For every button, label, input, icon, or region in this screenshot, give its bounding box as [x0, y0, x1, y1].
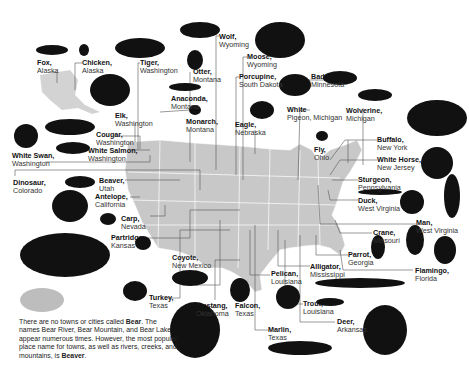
place-name: Kansas — [111, 242, 145, 250]
label-buffalo: Buffalo,New York — [377, 136, 407, 152]
falcon-silhouette — [230, 278, 250, 302]
place-name: Pigeon, Michigan — [287, 114, 342, 122]
anaconda-silhouette — [169, 83, 201, 91]
flamingo-silhouette — [434, 236, 456, 264]
place-name: Montana — [186, 126, 218, 134]
label-falcon: Falcon,Texas — [235, 302, 260, 318]
label-monarch: Monarch,Montana — [186, 118, 218, 134]
label-turkey: Turkey,Texas — [149, 294, 174, 310]
label-white-horse: White Horse,New Jersey — [377, 156, 421, 172]
label-white-pigeon: WhitePigeon, Michigan — [287, 106, 342, 122]
note-bold-beaver: Beaver — [62, 352, 85, 359]
label-dinosaur: Dinosaur,Colorado — [13, 179, 46, 195]
label-mustang: Mustang,Oklahoma — [196, 302, 229, 318]
label-anaconda: Anaconda,Montana — [171, 95, 208, 111]
buffalo-silhouette — [407, 100, 467, 136]
duck-silhouette — [400, 190, 424, 214]
man-silhouette — [444, 174, 460, 218]
label-elk: Elk,Washington — [115, 112, 153, 128]
place-name: Ohio — [314, 154, 329, 162]
porcupine-silhouette — [279, 74, 311, 96]
place-name: Arkansas — [337, 326, 367, 334]
label-white-salmon: White Salmon,Washington — [88, 147, 138, 163]
label-deer: Deer,Arkansas — [337, 318, 367, 334]
label-otter: Otter,Montana — [193, 68, 221, 84]
place-name: Wyoming — [219, 41, 249, 49]
place-name: Mississippi — [310, 271, 345, 279]
place-name: Minnesota — [311, 81, 344, 89]
label-pelican: Pelican,Louisiana — [271, 270, 302, 286]
wolverine-silhouette — [358, 89, 392, 101]
label-marlin: Marlin,Texas — [268, 326, 291, 342]
place-name: Pennsylvania — [358, 184, 401, 192]
tiger-silhouette — [115, 38, 165, 58]
chicken-silhouette — [79, 44, 89, 56]
pelican-silhouette — [276, 285, 300, 309]
place-name: South Dakota — [239, 81, 283, 89]
place-name: Washington — [140, 67, 178, 75]
label-partridge: Partridge,Kansas — [111, 234, 145, 250]
elk-silhouette — [90, 74, 130, 106]
coyote-silhouette — [172, 270, 208, 286]
animal-place-names-map: Fox,AlaskaChicken,AlaskaTiger,Washington… — [0, 0, 469, 372]
label-man: Man,West Virginia — [416, 219, 458, 235]
place-name: Missouri — [373, 237, 400, 245]
label-trout: Trout,Louisiana — [303, 300, 334, 316]
place-name: Alaska — [37, 67, 59, 75]
white-swan-badge — [14, 124, 38, 148]
label-sturgeon: Sturgeon,Pennsylvania — [358, 176, 401, 192]
place-name: Montana — [171, 103, 208, 111]
place-name: Oklahoma — [196, 310, 229, 318]
white-horse-badge — [421, 147, 453, 179]
fly-silhouette — [316, 131, 328, 141]
label-tiger: Tiger,Washington — [140, 59, 178, 75]
marlin-silhouette — [268, 341, 332, 355]
place-name: Washington — [12, 160, 54, 168]
beaver-silhouette — [65, 176, 95, 188]
label-porcupine: Porcupine,South Dakota — [239, 73, 283, 89]
place-name: New Jersey — [377, 164, 421, 172]
bear-beaver-note: There are no towns or cities called Bear… — [19, 318, 179, 360]
label-beaver: Beaver,Utah — [99, 177, 125, 193]
place-name: Texas — [149, 302, 174, 310]
place-name: Wyoming — [247, 61, 277, 69]
place-name: Georgia — [348, 259, 374, 267]
label-antelope: Antelope,California — [95, 193, 128, 209]
label-fox: Fox,Alaska — [37, 59, 59, 75]
place-name: Nebraska — [235, 129, 266, 137]
place-name: Montana — [193, 76, 221, 84]
cougar-silhouette — [45, 119, 95, 135]
label-wolf: Wolf,Wyoming — [219, 33, 249, 49]
place-name: Nevada — [121, 223, 146, 231]
place-name: New York — [377, 144, 407, 152]
label-duck: Duck,West Virginia — [358, 197, 400, 213]
turkey-silhouette — [123, 281, 147, 301]
note-text-3: . — [85, 352, 87, 359]
dinosaur-silhouette — [20, 233, 110, 277]
place-name: California — [95, 201, 128, 209]
note-bold-bear: Bear — [126, 318, 141, 325]
label-alligator: Alligator,Mississippi — [310, 263, 345, 279]
note-text-1: There are no towns or cities called — [19, 318, 126, 325]
place-name: Louisiana — [303, 308, 334, 316]
fox-silhouette — [36, 45, 68, 55]
place-name: Michigan — [346, 115, 382, 123]
label-eagle: Eagle,Nebraska — [235, 121, 266, 137]
alligator-silhouette — [315, 278, 405, 288]
label-flamingo: Flamingo,Florida — [415, 267, 449, 283]
label-white-swan: White Swan,Washington — [12, 152, 54, 168]
place-name: Alaska — [82, 67, 112, 75]
place-name: Colorado — [13, 187, 46, 195]
place-name: West Virginia — [358, 205, 400, 213]
label-wolverine: Wolverine,Michigan — [346, 107, 382, 123]
label-cougar: Cougar,Washington — [96, 131, 134, 147]
place-name: Washington — [115, 120, 153, 128]
place-name: New Mexico — [172, 262, 211, 270]
label-crane: Crane,Missouri — [373, 229, 400, 245]
place-name: Louisiana — [271, 278, 302, 286]
label-fly: Fly,Ohio — [314, 146, 329, 162]
eagle-silhouette — [250, 101, 274, 119]
carp-silhouette — [100, 213, 116, 225]
place-name: Texas — [235, 310, 260, 318]
place-name: Washington — [88, 155, 138, 163]
